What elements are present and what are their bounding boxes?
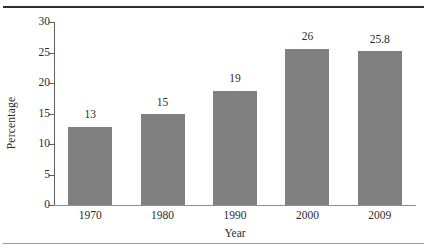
bar-value-label: 15 [157,97,169,109]
x-axis-tick-label: 1970 [79,210,102,222]
y-axis-tick-label: 5 [44,169,50,181]
bar-value-label: 19 [229,73,241,85]
x-axis-tick-label: 1990 [224,210,247,222]
top-divider-rule [3,6,424,8]
y-axis-tick-label: 30 [39,16,51,28]
bar-series: 1315192625.8 [54,22,416,205]
y-axis-tick-label: 15 [39,108,51,120]
y-axis-tick-label: 25 [39,47,51,59]
bar[interactable] [285,49,329,205]
bar[interactable] [358,51,402,205]
bar-value-label: 26 [302,31,314,43]
bar[interactable] [213,91,257,205]
x-axis-tick-label: 2009 [368,210,391,222]
plot-area: 1315192625.8 051015202530 [54,22,416,205]
x-axis-title: Year [54,228,416,240]
y-axis-title-text: Percentage [5,97,17,149]
x-axis-line [54,205,416,206]
bar-value-label: 25.8 [370,34,390,46]
y-axis-tick-label: 10 [39,138,51,150]
y-axis-title: Percentage [4,78,18,168]
x-axis-tick-label: 1980 [151,210,174,222]
y-axis-tick-label: 0 [44,199,50,211]
bottom-divider-rule [3,243,424,244]
y-axis-tick-label: 20 [39,77,51,89]
bar-chart-figure: Percentage 1315192625.8 051015202530 197… [0,0,427,252]
bar-value-label: 13 [84,109,96,121]
bar[interactable] [68,127,112,205]
x-axis-tick-label: 2000 [296,210,319,222]
bar[interactable] [141,114,185,205]
